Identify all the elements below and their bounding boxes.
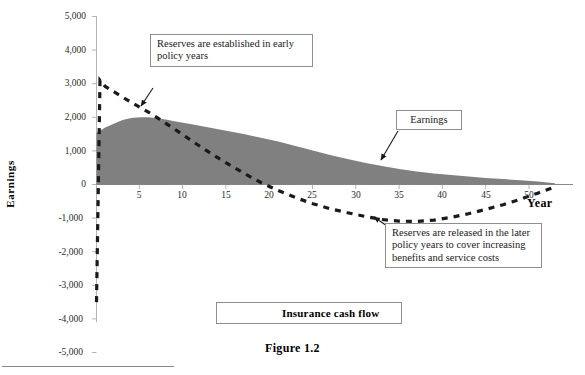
figure-caption: Figure 1.2 xyxy=(0,341,585,356)
y-tick-label: -2,000 xyxy=(37,247,83,257)
leader-line-earnings xyxy=(381,131,398,160)
y-tick-label: -3,000 xyxy=(37,280,83,290)
y-tick-label: 4,000 xyxy=(40,45,86,55)
x-tick-label: 25 xyxy=(300,190,324,200)
legend-item-label: Insurance cash flow xyxy=(282,307,379,319)
y-tick-label: -1,000 xyxy=(37,213,83,223)
callout-earnings: Earnings xyxy=(396,110,462,130)
x-tick-label: 10 xyxy=(170,190,194,200)
x-tick-marks xyxy=(139,185,529,190)
y-tick-marks xyxy=(92,17,97,353)
y-tick-label: 0 xyxy=(40,179,86,189)
x-tick-label: 45 xyxy=(474,190,498,200)
x-tick-label: 30 xyxy=(344,190,368,200)
leader-line-reserves-established xyxy=(141,88,153,106)
y-tick-label: -4,000 xyxy=(37,314,83,324)
x-tick-label: 20 xyxy=(257,190,281,200)
callout-reserves-released: Reserves are released in the later polic… xyxy=(385,223,542,268)
y-tick-label: 1,000 xyxy=(40,146,86,156)
x-tick-label: 35 xyxy=(387,190,411,200)
chart-legend: Insurance cash flow xyxy=(216,302,402,324)
figure-container: 5,000 4,000 3,000 2,000 1,000 0 -1,000 -… xyxy=(0,0,585,375)
y-tick-label: 5,000 xyxy=(40,11,86,21)
callout-reserves-established: Reserves are established in early policy… xyxy=(150,34,313,67)
x-tick-label: 40 xyxy=(430,190,454,200)
earnings-area xyxy=(97,117,556,184)
x-axis-title: Year xyxy=(527,196,553,211)
y-axis-title: Earnings xyxy=(4,154,16,214)
y-tick-label: 2,000 xyxy=(40,112,86,122)
footnote-separator xyxy=(2,366,174,367)
x-tick-label: 15 xyxy=(214,190,238,200)
y-tick-label: 3,000 xyxy=(40,78,86,88)
x-tick-label: 5 xyxy=(127,190,151,200)
